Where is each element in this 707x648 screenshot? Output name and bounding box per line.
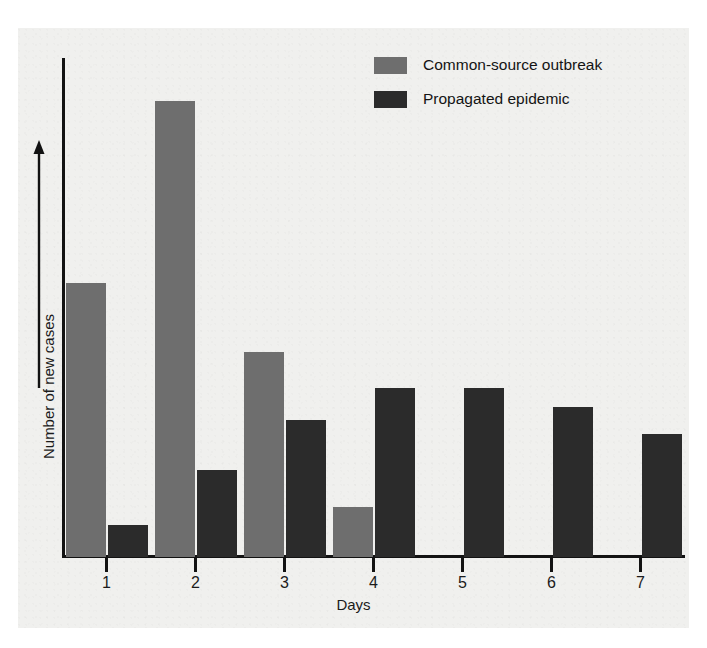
legend-label-common-source: Common-source outbreak — [423, 56, 602, 74]
x-tick-6 — [550, 558, 553, 572]
bar-common-source-day-3 — [244, 352, 284, 557]
x-tick-label-1: 1 — [92, 574, 122, 592]
bar-propagated-day-2 — [197, 470, 237, 557]
legend-swatch-common-source — [374, 57, 407, 74]
bar-propagated-day-6 — [553, 407, 593, 557]
x-tick-label-3: 3 — [270, 574, 300, 592]
legend-swatch-propagated — [374, 91, 407, 108]
x-tick-label-5: 5 — [448, 574, 478, 592]
x-tick-7 — [639, 558, 642, 572]
chart-legend: Common-source outbreak Propagated epidem… — [374, 56, 674, 124]
x-tick-1 — [105, 558, 108, 572]
bar-propagated-day-4 — [375, 388, 415, 557]
scanned-page-background: Number of new cases 1234567 Days Common-… — [18, 28, 689, 628]
x-tick-2 — [194, 558, 197, 572]
bar-common-source-day-2 — [155, 101, 195, 557]
x-tick-5 — [461, 558, 464, 572]
figure: Number of new cases 1234567 Days Common-… — [0, 0, 707, 648]
bar-propagated-day-3 — [286, 420, 326, 557]
bar-common-source-day-1 — [66, 283, 106, 557]
y-axis-title: Number of new cases — [40, 272, 57, 502]
x-tick-label-4: 4 — [359, 574, 389, 592]
bar-propagated-day-5 — [464, 388, 504, 557]
x-tick-4 — [372, 558, 375, 572]
x-tick-label-2: 2 — [181, 574, 211, 592]
bar-propagated-day-1 — [108, 525, 148, 557]
bar-propagated-day-7 — [642, 434, 682, 557]
legend-item-propagated: Propagated epidemic — [374, 90, 674, 108]
x-tick-3 — [283, 558, 286, 572]
x-tick-label-6: 6 — [537, 574, 567, 592]
legend-item-common-source: Common-source outbreak — [374, 56, 674, 74]
x-tick-label-7: 7 — [626, 574, 656, 592]
legend-label-propagated: Propagated epidemic — [423, 90, 570, 108]
bar-common-source-day-4 — [333, 507, 373, 557]
x-axis-title: Days — [18, 596, 689, 613]
